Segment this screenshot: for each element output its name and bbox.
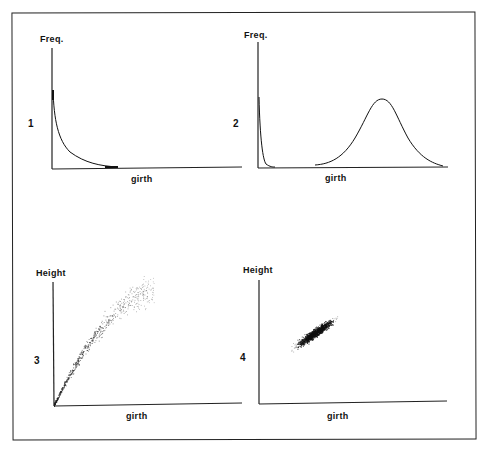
- panel-4-scatter: [291, 316, 338, 352]
- panel-1-xlabel: girth: [131, 174, 153, 184]
- panel-3-scatter: [54, 276, 155, 407]
- panel-2-ylabel: Freq.: [244, 30, 268, 40]
- panel-1-ylabel: Freq.: [40, 34, 64, 44]
- panel-3-axes: [53, 282, 242, 406]
- chart-plots: [0, 0, 484, 450]
- panel-4-number: 4: [240, 352, 246, 363]
- panel-2-number: 2: [233, 118, 239, 129]
- panel-1-number: 1: [28, 118, 34, 129]
- panel-4-axes: [259, 280, 447, 404]
- panel-1-axes: [52, 48, 242, 169]
- panel-1-curve: [53, 90, 118, 167]
- panel-2-peak-curve: [259, 97, 275, 167]
- panel-4-xlabel: girth: [327, 411, 349, 421]
- panel-2-xlabel: girth: [325, 173, 347, 183]
- panel-3-number: 3: [34, 355, 40, 366]
- panel-2-bell-curve: [315, 99, 443, 166]
- panel-3-xlabel: girth: [126, 411, 148, 421]
- panel-4-ylabel: Height: [243, 265, 273, 275]
- panel-3-ylabel: Height: [36, 268, 66, 278]
- panel-2-axes: [258, 42, 448, 168]
